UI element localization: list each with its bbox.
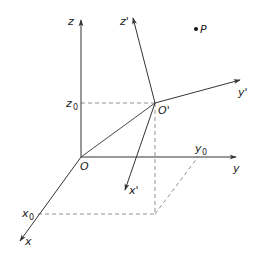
x-axis <box>20 157 81 241</box>
primed-axes <box>125 18 240 190</box>
point-p-label: P <box>200 23 207 36</box>
main-axes <box>20 20 236 241</box>
z-axis-label: z <box>67 15 74 28</box>
y-prime-axis <box>155 80 240 103</box>
x0-label-sub: 0 <box>29 213 34 222</box>
z0-label-sub: 0 <box>73 103 78 112</box>
coordinate-diagram: z y x z' y' x' O O' P z 0 y 0 x 0 <box>0 0 256 256</box>
y0-label: y 0 <box>194 142 207 157</box>
y0-label-sub: 0 <box>202 148 207 157</box>
x0-label-base: x <box>21 207 29 220</box>
dashed-projection-lines <box>38 103 198 214</box>
y-prime-label: y' <box>237 86 248 99</box>
origin-label: O <box>80 160 89 173</box>
x0-label: x 0 <box>21 207 34 222</box>
y-axis-label: y <box>232 162 240 175</box>
point-p-dot <box>194 27 198 31</box>
z-prime-axis <box>133 18 155 103</box>
x-prime-axis <box>125 103 155 190</box>
z0-label-base: z <box>65 97 72 110</box>
z0-label: z 0 <box>65 97 78 112</box>
primed-origin-label: O' <box>158 104 170 117</box>
origin-offset-line <box>81 103 155 157</box>
x-prime-label: x' <box>128 184 139 197</box>
y0-label-base: y <box>194 142 202 155</box>
z-prime-label: z' <box>119 15 129 28</box>
x-axis-label: x <box>24 235 32 248</box>
y0-dashed-line <box>155 157 198 214</box>
